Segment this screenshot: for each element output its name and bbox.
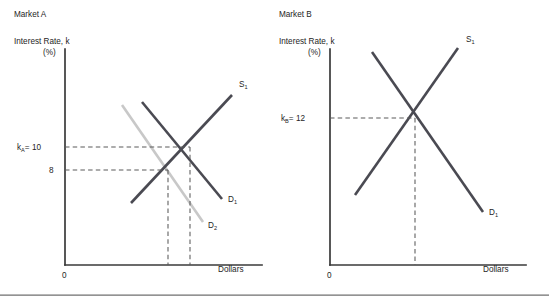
panel-b-y-axis-label: Interest Rate, k [279, 37, 335, 46]
label-demand-2: D2 [208, 221, 217, 231]
curve-b-demand-1 [372, 52, 483, 212]
economics-figure: Market A Interest Rate, k (%) 0 Dollars … [0, 0, 549, 303]
panel-b-x-axis-label: Dollars [483, 265, 508, 274]
panel-a-title: Market A [14, 10, 47, 19]
panel-a-origin-label: 0 [62, 271, 67, 280]
label-supply-1-sub: 1 [244, 84, 247, 90]
label-b-supply-1: S1 [466, 35, 475, 45]
svg-text:kA= 10: kA= 10 [17, 143, 41, 153]
panel-b-rate-value: = 12 [289, 114, 306, 123]
label-demand-1: D1 [228, 195, 237, 205]
panel-a-y-axis-unit: (%) [43, 48, 56, 57]
label-supply-1: S1 [239, 80, 248, 90]
panel-b-rate-label-12: kB= 12 [281, 114, 305, 124]
panel-a-rate-value: = 10 [25, 143, 42, 152]
panel-a-x-axis-label: Dollars [218, 265, 243, 274]
label-demand-2-sub: 2 [214, 225, 217, 231]
panel-b-title: Market B [279, 10, 312, 19]
panel-b-y-axis-unit: (%) [308, 48, 321, 57]
panel-a-rate-label-10: kA= 10 [17, 143, 41, 153]
panel-a-y-axis-label: Interest Rate, k [14, 37, 70, 46]
curve-b-supply-1 [355, 48, 458, 195]
label-b-demand-1: D1 [489, 208, 498, 218]
panel-market-a: Market A Interest Rate, k (%) 0 Dollars … [14, 10, 262, 280]
panel-a-rate-label-8: 8 [49, 166, 54, 175]
label-b-supply-1-sub: 1 [471, 39, 474, 45]
panel-market-b: Market B Interest Rate, k (%) 0 Dollars … [279, 10, 526, 280]
label-demand-1-sub: 1 [234, 199, 237, 205]
label-b-demand-1-sub: 1 [495, 212, 498, 218]
panel-b-origin-label: 0 [327, 271, 332, 280]
curve-demand-2 [122, 105, 203, 222]
curve-supply-1 [131, 95, 232, 203]
